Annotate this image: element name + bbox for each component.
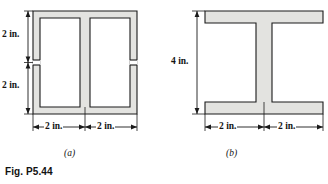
panel-b: 4 in. 2 in. 2 in. (b) (178, 0, 328, 145)
dim-label-a-vertical-top: 2 in. (2, 29, 19, 39)
box-section-outline (33, 11, 137, 114)
dim-label-b-horizontal-left: 2 in. (218, 121, 237, 131)
arrow-a-h2-right (131, 125, 137, 130)
arrow-a-h2-left (85, 125, 91, 130)
figure-caption: Fig. P5.44 (5, 166, 53, 177)
arrow-b-h2-left (264, 125, 270, 130)
arrow-b-v-up (195, 11, 200, 17)
dim-label-a-vertical-bottom: 2 in. (2, 80, 19, 90)
panel-b-drawing (178, 0, 328, 145)
arrow-a-h1-right (79, 125, 85, 130)
dim-label-b-horizontal-right: 2 in. (277, 121, 296, 131)
right-wall-notch (129, 60, 137, 65)
panel-a: 2 in. 2 in. 2 in. 2 in. (a) (0, 0, 160, 145)
panel-a-vertical-dimensions (24, 11, 33, 114)
panel-b-label: (b) (226, 148, 237, 158)
section-a-geometry (32, 11, 137, 114)
dim-label-a-horizontal-left: 2 in. (44, 121, 63, 131)
panel-a-drawing (0, 0, 160, 145)
panel-a-label: (a) (64, 148, 75, 158)
arrow-a-v1-down (26, 57, 31, 63)
panel-b-vertical-dimensions (192, 11, 205, 114)
section-b-geometry (205, 11, 323, 114)
left-wall-notch (32, 60, 40, 65)
dim-label-b-vertical: 4 in. (171, 56, 188, 66)
arrow-b-v-down (195, 108, 200, 114)
arrow-a-v2-down (26, 108, 31, 114)
arrow-a-h1-left (33, 125, 39, 130)
arrow-b-h1-left (205, 125, 211, 130)
figure-canvas: 2 in. 2 in. 2 in. 2 in. (a) (0, 0, 328, 184)
i-beam-outline (205, 11, 323, 114)
dim-label-a-horizontal-right: 2 in. (96, 121, 115, 131)
arrow-b-h1-right (258, 125, 264, 130)
arrow-a-v2-up (26, 63, 31, 69)
arrow-a-v1-up (26, 11, 31, 17)
arrow-b-h2-right (317, 125, 323, 130)
